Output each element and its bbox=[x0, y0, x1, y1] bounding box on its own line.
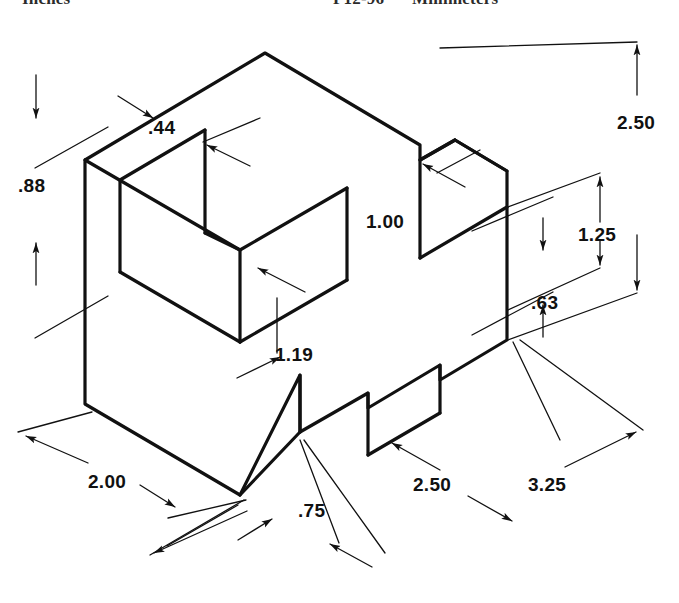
ext-088-bottom bbox=[35, 296, 108, 338]
ext-200-right bbox=[168, 500, 246, 518]
dimension-label-125: 1.25 bbox=[578, 224, 616, 246]
dim-075-arrow-left bbox=[238, 519, 272, 540]
dimension-label-250-length: 2.50 bbox=[413, 474, 451, 496]
dimension-label-200: 2.00 bbox=[88, 471, 126, 493]
ext-125-top bbox=[508, 173, 600, 207]
pocket-floor-left bbox=[120, 272, 240, 342]
slot-right-upper-floor bbox=[420, 207, 507, 258]
pocket-top-rear-edge bbox=[85, 160, 240, 250]
dim-044-arrow-left bbox=[118, 96, 153, 118]
dimension-label-075: .75 bbox=[298, 500, 325, 522]
dim-200-arrow-left bbox=[26, 436, 88, 463]
ext-100-lead bbox=[437, 150, 480, 173]
ext-325-right bbox=[520, 340, 643, 430]
dim-100-arrow bbox=[423, 164, 465, 187]
pocket-floor-right bbox=[240, 280, 347, 342]
ext-075-right bbox=[304, 440, 385, 553]
ext-250a-bottom bbox=[508, 293, 637, 340]
dimension-label-250-height: 2.50 bbox=[617, 112, 655, 134]
slot-right-upper-diag bbox=[455, 140, 507, 171]
isometric-drawing-canvas bbox=[0, 0, 679, 603]
notch-lower-right-floor bbox=[368, 413, 440, 455]
dim-044-arrow-right bbox=[207, 145, 250, 166]
dimension-label-100: 1.00 bbox=[366, 211, 404, 233]
dim-119-arrow-right bbox=[237, 357, 280, 378]
dimension-label-063: .63 bbox=[531, 292, 558, 314]
dim-200-arrow-right bbox=[140, 485, 175, 507]
dim-075-arrow-right bbox=[330, 544, 372, 567]
ext-250b-left bbox=[300, 440, 339, 543]
ext-075-left bbox=[167, 505, 238, 546]
dimension-label-044: .44 bbox=[148, 117, 175, 139]
dim-119-arrow-left bbox=[258, 268, 305, 292]
slot-right-upper-back bbox=[420, 140, 455, 160]
dimension-label-088: .88 bbox=[18, 175, 45, 197]
dim-325-arrow-left bbox=[154, 511, 247, 553]
dim-325-arrow-right bbox=[565, 432, 636, 467]
dimension-label-325: 3.25 bbox=[528, 474, 566, 496]
pocket-top-front-edge bbox=[240, 188, 347, 250]
dimension-label-119: 1.19 bbox=[275, 344, 313, 366]
drawing-page: Inches P12-96 Millimeters bbox=[0, 0, 679, 603]
dim-250b-arrow-right bbox=[468, 496, 512, 521]
dim-250b-arrow-left bbox=[392, 443, 440, 470]
ext-250b-right bbox=[513, 342, 560, 440]
ext-325-left bbox=[150, 500, 244, 555]
front-bottom-right-edge bbox=[240, 432, 300, 495]
ext-088-top bbox=[35, 127, 108, 168]
pocket-rear-inner-diag bbox=[205, 233, 240, 250]
ext-200-left bbox=[18, 412, 92, 432]
ext-250a-top bbox=[440, 42, 637, 48]
ext-063-top bbox=[472, 197, 553, 231]
ext-044-lead bbox=[203, 118, 260, 142]
